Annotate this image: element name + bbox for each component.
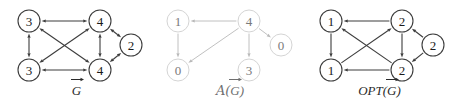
graph-edge xyxy=(344,68,390,71)
graph-edge xyxy=(329,34,332,58)
vector-arrow-icon-g xyxy=(71,75,83,82)
graph-edge xyxy=(344,19,390,22)
three-graph-figure: 34234 G 14003 A(G) 12212 OPT(G) xyxy=(0,0,459,111)
graph-edge xyxy=(176,34,179,58)
graph-node: 3 xyxy=(18,59,40,81)
caption-prefix-opt: OPT( xyxy=(358,83,387,98)
graph-node: 4 xyxy=(89,10,111,32)
node-label: 2 xyxy=(399,14,406,29)
arrowhead-icon xyxy=(83,68,87,71)
graph-edge xyxy=(412,53,423,62)
graph-node: 2 xyxy=(120,34,142,56)
graph-node: 4 xyxy=(89,59,111,81)
caption-prefix-a: A( xyxy=(216,83,230,98)
arrowhead-icon xyxy=(400,53,403,57)
graph-edge xyxy=(42,19,88,22)
graph-node: 1 xyxy=(320,10,342,32)
graph-node: 0 xyxy=(167,59,189,81)
node-label: 4 xyxy=(97,14,104,29)
node-label: 4 xyxy=(246,14,253,29)
node-label: 0 xyxy=(278,38,285,53)
node-label: 3 xyxy=(246,63,253,78)
arrowhead-icon xyxy=(247,53,250,57)
node-label: 1 xyxy=(175,14,182,29)
arrowhead-icon xyxy=(27,53,30,57)
arrowhead-icon xyxy=(176,53,179,57)
node-label: 2 xyxy=(128,38,135,53)
graph-edge xyxy=(98,34,101,58)
arrowhead-icon xyxy=(42,68,46,71)
graph-edge xyxy=(110,29,121,38)
arrowhead-icon xyxy=(344,68,348,71)
graph-node: 2 xyxy=(391,10,413,32)
node-label: 2 xyxy=(430,38,437,53)
arrowhead-icon xyxy=(42,19,46,22)
graph-node: 2 xyxy=(422,34,444,56)
graph-edge xyxy=(42,68,88,71)
caption-text-a: G xyxy=(230,83,239,98)
graph-edge xyxy=(412,29,423,38)
graph-drawing-opt: 12212 xyxy=(300,0,459,88)
caption-opt: OPT(G) xyxy=(300,83,459,99)
graph-panel-opt: 12212 OPT(G) xyxy=(300,0,459,111)
arrowhead-icon xyxy=(344,19,348,22)
graph-edge xyxy=(400,34,403,58)
arrowhead-icon xyxy=(329,53,332,57)
node-label: 3 xyxy=(26,63,33,78)
node-label: 4 xyxy=(97,63,104,78)
graph-edge xyxy=(259,29,271,38)
graph-edge xyxy=(191,19,237,22)
graph-node: 1 xyxy=(320,59,342,81)
vector-arrow-icon-opt xyxy=(386,75,398,82)
caption-suffix-a: ) xyxy=(240,83,244,98)
graph-node: 4 xyxy=(238,10,260,32)
node-label: 0 xyxy=(175,63,182,78)
arrowhead-icon xyxy=(188,59,192,63)
graph-node: 3 xyxy=(18,10,40,32)
vector-accent-wrapper-a: G xyxy=(230,83,239,99)
caption-suffix-opt: ) xyxy=(396,83,400,98)
arrowhead-icon xyxy=(98,34,101,38)
graph-edge xyxy=(110,53,121,62)
vector-accent-wrapper-opt: G xyxy=(387,83,396,99)
arrowhead-icon xyxy=(191,19,195,22)
arrowhead-icon xyxy=(27,34,30,38)
graph-panel-g: 34234 G xyxy=(0,0,153,111)
graph-node: 0 xyxy=(270,34,292,56)
caption-text-g: G xyxy=(72,83,81,98)
node-label: 1 xyxy=(328,14,335,29)
caption-text-opt: G xyxy=(387,83,396,98)
arrowhead-icon xyxy=(98,53,101,57)
graph-edge xyxy=(188,28,238,63)
graph-node: 1 xyxy=(167,10,189,32)
node-label: 3 xyxy=(26,14,33,29)
graph-edge xyxy=(27,34,30,58)
arrowhead-icon xyxy=(83,19,87,22)
graph-panel-a: 14003 A(G) xyxy=(150,0,310,111)
vector-arrow-icon-a xyxy=(229,75,241,82)
vector-accent-wrapper-g: G xyxy=(72,83,81,99)
node-label: 1 xyxy=(328,63,335,78)
caption-a: A(G) xyxy=(150,83,310,99)
caption-g: G xyxy=(0,83,153,99)
graph-edge xyxy=(247,34,250,58)
